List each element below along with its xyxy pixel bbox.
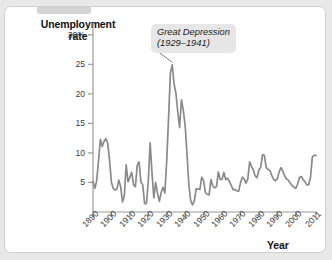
y-tick-label: 10 — [51, 148, 85, 158]
y-tick-label: 5 — [51, 177, 85, 187]
annotation-line2: (1929–1941) — [157, 38, 210, 48]
y-tick-label: 30% — [51, 30, 85, 40]
annotation-line1: Great Depression — [157, 27, 230, 37]
unemployment-data-line — [93, 65, 316, 205]
annotation-callout: Great Depression (1929–1941) — [151, 24, 236, 53]
axis-ticks — [88, 35, 316, 217]
y-tick-label: 20 — [51, 89, 85, 99]
figure-card: Unemployment rate Year Great Depression … — [4, 6, 326, 253]
y-tick-label: 15 — [51, 118, 85, 128]
y-tick-label: 25 — [51, 59, 85, 69]
